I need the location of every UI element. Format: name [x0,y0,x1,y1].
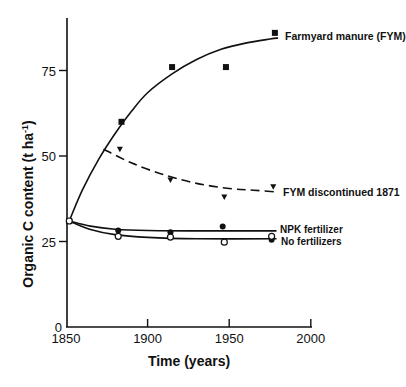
organic-carbon-chart: 0255075 1850190019502000 Time (years) Or… [0,0,406,387]
y-tick-label: 75 [42,64,56,79]
label-npk: NPK fertilizer [280,224,343,235]
x-tick-label: 1950 [215,331,244,346]
triangle-marker [167,177,173,183]
open-circle-marker [115,233,121,239]
npk-line [69,221,276,231]
x-tick-label: 2000 [296,331,325,346]
x-tick-label: 1900 [133,331,162,346]
open-circle-marker [221,239,227,245]
x-tick-label: 1850 [52,331,81,346]
square-marker [272,30,278,36]
square-marker [223,64,229,70]
y-tick-label: 50 [42,149,56,164]
y-tick-label: 25 [42,235,56,250]
triangle-marker [117,147,123,153]
y-ticks: 0255075 [42,64,67,336]
square-marker [118,119,124,125]
triangle-marker [221,195,227,201]
series-markers [66,30,278,245]
square-marker [169,64,175,70]
open-circle-marker [167,234,173,240]
filled-circle-marker [220,223,226,229]
triangle-marker [270,184,276,190]
label-no-fertilizers: No fertilizers [281,236,342,247]
fym-discontinued-line [104,149,277,192]
open-circle-marker [269,233,275,239]
label-fym-discontinued: FYM discontinued 1871 [283,186,400,198]
filled-circle-marker [115,228,121,234]
y-axis-label: Organic C content (t ha-1) [20,120,36,287]
x-axis-label: Time (years) [148,353,230,369]
label-fym: Farmyard manure (FYM) [285,30,406,42]
open-circle-marker [66,218,72,224]
x-ticks: 1850190019502000 [52,319,326,346]
